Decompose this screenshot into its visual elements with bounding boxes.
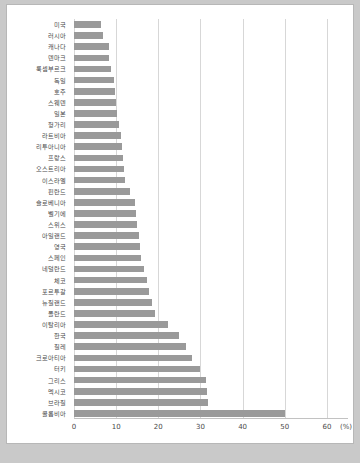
bar-row: [74, 308, 348, 319]
bar: [74, 21, 101, 28]
bar: [74, 355, 192, 362]
bar-row: [74, 97, 348, 108]
category-label: 미국: [54, 19, 66, 30]
bar-row: [74, 386, 348, 397]
bar: [74, 410, 285, 417]
bar: [74, 321, 168, 328]
bar: [74, 110, 117, 117]
x-tick-label-30: 30: [196, 423, 205, 431]
category-label: 스위스: [48, 219, 66, 230]
bar: [74, 388, 207, 395]
bar-row: [74, 141, 348, 152]
bar: [74, 288, 149, 295]
category-label: 핀란드: [48, 186, 66, 197]
category-label: 뉴질랜드: [42, 297, 66, 308]
category-label: 슬로베니아: [36, 197, 67, 208]
bar-row: [74, 86, 348, 97]
x-tick-label-10: 10: [112, 423, 121, 431]
bar-row: [74, 108, 348, 119]
bar-row: [74, 175, 348, 186]
bar-row: [74, 52, 348, 63]
bar-row: [74, 152, 348, 163]
bar: [74, 377, 206, 384]
bar: [74, 255, 141, 262]
category-label: 아일랜드: [42, 230, 66, 241]
category-label: 그리스: [48, 375, 66, 386]
bar: [74, 332, 179, 339]
bar: [74, 232, 139, 239]
bar-row: [74, 375, 348, 386]
bar-row: [74, 19, 348, 30]
bar: [74, 55, 109, 62]
chart-figure-card: 미국러시아캐나다덴마크룩셈부르크독일호주스웨덴일본헝가리라트비아리투아니아프랑스…: [6, 4, 354, 444]
bar-row: [74, 330, 348, 341]
category-axis-labels: 미국러시아캐나다덴마크룩셈부르크독일호주스웨덴일본헝가리라트비아리투아니아프랑스…: [7, 19, 70, 419]
category-label: 룩셈부르크: [36, 63, 67, 74]
bar-row: [74, 75, 348, 86]
bar: [74, 310, 155, 317]
category-label: 독일: [54, 75, 66, 86]
category-label: 네덜란드: [42, 263, 66, 274]
bar: [74, 199, 135, 206]
category-label: 칠레: [54, 341, 66, 352]
category-label: 터키: [54, 363, 66, 374]
category-label: 멕시코: [48, 386, 66, 397]
category-label: 크로아티아: [36, 352, 67, 363]
category-label: 캐나다: [48, 41, 66, 52]
bar: [74, 221, 137, 228]
category-label: 포르투갈: [42, 286, 66, 297]
bar-row: [74, 241, 348, 252]
bar-row: [74, 252, 348, 263]
bar: [74, 299, 152, 306]
bar: [74, 88, 115, 95]
category-label: 스웨덴: [48, 97, 66, 108]
bar-row: [74, 363, 348, 374]
bar-row: [74, 297, 348, 308]
x-tick-label-60: 60: [322, 423, 331, 431]
category-label: 이스라엘: [42, 175, 66, 186]
bar-row: [74, 219, 348, 230]
bar-row: [74, 119, 348, 130]
bar: [74, 177, 125, 184]
bar: [74, 121, 119, 128]
bar-row: [74, 208, 348, 219]
bar: [74, 343, 186, 350]
bar-row: [74, 186, 348, 197]
bar: [74, 32, 103, 39]
category-label: 리투아니아: [36, 141, 67, 152]
x-axis-unit-label: (%): [340, 423, 352, 431]
bar-series: [74, 19, 348, 419]
bar: [74, 266, 144, 273]
bar: [74, 77, 114, 84]
category-label: 일본: [54, 108, 66, 119]
bar-row: [74, 63, 348, 74]
bar: [74, 143, 122, 150]
category-label: 라트비아: [42, 130, 66, 141]
bar: [74, 99, 116, 106]
value-axis-labels: 0102030405060(%): [74, 423, 359, 437]
category-label: 프랑스: [48, 152, 66, 163]
bar: [74, 132, 121, 139]
category-label: 오스트리아: [36, 163, 67, 174]
category-label: 브라질: [48, 397, 66, 408]
bar: [74, 43, 109, 50]
category-label: 이탈리아: [42, 319, 66, 330]
category-label: 한국: [54, 330, 66, 341]
category-label: 체코: [54, 275, 66, 286]
bar-row: [74, 275, 348, 286]
bar: [74, 399, 208, 406]
x-tick-label-20: 20: [154, 423, 163, 431]
bar: [74, 166, 124, 173]
x-tick-label-40: 40: [238, 423, 247, 431]
category-label: 영국: [54, 241, 66, 252]
category-label: 벨기에: [48, 208, 66, 219]
category-label: 스페인: [48, 252, 66, 263]
bar-row: [74, 130, 348, 141]
bar-row: [74, 163, 348, 174]
category-label: 헝가리: [48, 119, 66, 130]
category-label: 덴마크: [48, 52, 66, 63]
bar-row: [74, 352, 348, 363]
bar-row: [74, 197, 348, 208]
x-axis-line: [74, 418, 348, 419]
bar-row: [74, 30, 348, 41]
